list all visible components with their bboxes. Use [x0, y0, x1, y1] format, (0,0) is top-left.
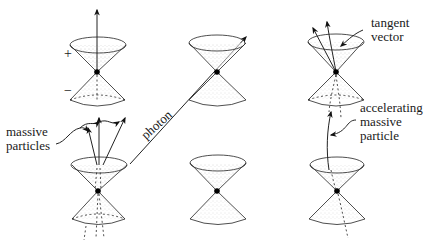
tangent-label: tangent	[371, 15, 410, 30]
event-point	[214, 188, 220, 194]
event-point	[214, 69, 220, 75]
accelerating-label: accelerating	[360, 100, 423, 115]
event-point	[333, 69, 339, 75]
svg-text:particles: particles	[6, 138, 50, 153]
event-point	[334, 188, 340, 194]
event-point	[95, 188, 101, 194]
particle-worldline-arrow-icon	[88, 128, 97, 165]
accelerating-worldline-arrow-icon	[327, 112, 331, 170]
light-cone-diagram: + − massive particles photon	[0, 0, 426, 241]
cone-bottom-right: accelerating massive particle	[309, 100, 423, 238]
past-cone-minus-label: −	[64, 83, 72, 98]
event-point	[94, 69, 100, 75]
cone-top-middle	[189, 35, 246, 106]
cone-top-left: + −	[64, 10, 126, 106]
massive-label: massive	[360, 114, 402, 129]
massive-particles-annotation: massive particles	[6, 121, 119, 153]
svg-text:massive: massive	[6, 124, 48, 139]
cone-bottom-middle	[190, 155, 246, 225]
future-cone-plus-label: +	[64, 46, 72, 61]
photon-label: photon	[138, 107, 175, 143]
particle-label: particle	[360, 128, 399, 143]
vector-label: vector	[371, 29, 404, 44]
